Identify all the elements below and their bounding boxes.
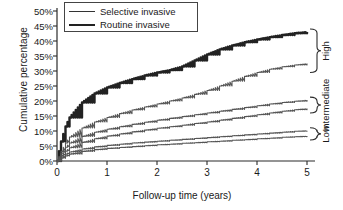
x-tick-label-0: 0 xyxy=(47,167,67,178)
chart-figure: Cumulative percentage 0%5%10%15%20%25%30… xyxy=(0,0,343,210)
x-tick-label-2: 2 xyxy=(147,167,167,178)
legend-line-thick-icon xyxy=(69,24,95,26)
legend-line-thin-icon xyxy=(69,11,95,12)
legend-label-selective: Selective invasive xyxy=(100,5,176,18)
x-tick-label-1: 1 xyxy=(97,167,117,178)
x-tick-label-4: 4 xyxy=(247,167,267,178)
legend-item-selective: Selective invasive xyxy=(69,5,197,18)
chart-legend: Selective invasive Routine invasive xyxy=(64,2,198,32)
group-label-low: Low xyxy=(320,74,331,194)
legend-label-routine: Routine invasive xyxy=(100,18,170,31)
legend-item-routine: Routine invasive xyxy=(69,18,197,31)
x-tick-label-3: 3 xyxy=(197,167,217,178)
x-tick-label-5: 5 xyxy=(297,167,317,178)
